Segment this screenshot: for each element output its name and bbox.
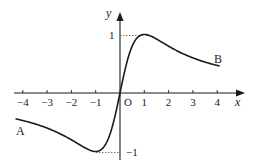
x-tick-label: 3 (190, 96, 196, 108)
origin-label: O (124, 96, 132, 108)
x-axis-label: x (234, 95, 241, 109)
y-tick-label-1: 1 (109, 29, 115, 41)
y-axis-label: y (105, 6, 112, 20)
x-tick-label: −1 (90, 96, 102, 108)
x-tick-label: −3 (41, 96, 53, 108)
x-tick-label: 1 (142, 96, 148, 108)
y-axis-arrow-icon (117, 12, 124, 21)
x-tick-label: 2 (166, 96, 172, 108)
x-tick-label: −4 (17, 96, 29, 108)
y-tick-label-minus-1: −1 (126, 146, 138, 158)
point-b-label: B (214, 52, 222, 66)
function-graph: y x O 1 −1 A B −4−3−2−11234 (0, 0, 255, 166)
x-tick-label: 4 (214, 96, 220, 108)
point-a-label: A (16, 124, 25, 138)
x-tick-label: −2 (66, 96, 78, 108)
